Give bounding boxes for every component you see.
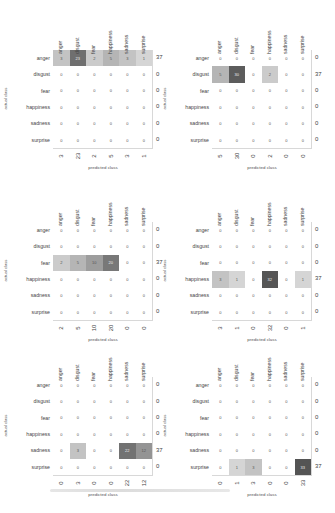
figure-caption-blurred xyxy=(50,489,230,492)
matrix-cell: 0 xyxy=(86,271,103,287)
row-label: anger xyxy=(165,55,209,61)
column-sum: 0 xyxy=(91,478,97,488)
row-sum: 0 xyxy=(315,103,318,109)
matrix-cell: 0 xyxy=(53,66,70,82)
matrix-cell: 0 xyxy=(53,459,70,475)
y-axis-label: actual class xyxy=(162,406,167,446)
column-label: anger xyxy=(216,213,222,226)
matrix-cell: 0 xyxy=(229,132,246,148)
matrix-cell: 0 xyxy=(136,255,153,271)
matrix-cell: 0 xyxy=(245,66,262,82)
matrix-cell: 0 xyxy=(212,116,229,132)
column-sum: 3 xyxy=(217,323,223,333)
matrix-cell: 0 xyxy=(86,83,103,99)
column-label: disgust xyxy=(74,210,80,226)
matrix-cell: 0 xyxy=(136,459,153,475)
column-label: fear xyxy=(90,45,96,54)
column-label: fear xyxy=(249,45,255,54)
row-sum: 0 xyxy=(156,430,159,436)
column-sum: 3 xyxy=(124,151,130,161)
matrix-cell: 0 xyxy=(245,83,262,99)
matrix-cell: 0 xyxy=(136,66,153,82)
x-axis-label: predicted class xyxy=(212,165,312,170)
column-label: anger xyxy=(216,41,222,54)
matrix-cell: 0 xyxy=(103,443,120,459)
matrix-cell: 0 xyxy=(278,271,295,287)
matrix-cell: 0 xyxy=(229,304,246,320)
column-sum: 32 xyxy=(267,323,273,333)
matrix-cell: 0 xyxy=(119,288,136,304)
row-sum: 0 xyxy=(315,430,318,436)
matrix-cell: 0 xyxy=(119,271,136,287)
row-label: surprise xyxy=(165,137,209,143)
matrix-cell: 10 xyxy=(86,255,103,271)
matrix-cell: 12 xyxy=(136,443,153,459)
matrix-cell: 0 xyxy=(295,83,312,99)
matrix-cell: 0 xyxy=(245,132,262,148)
column-label: happiness xyxy=(266,357,272,381)
row-sum: 0 xyxy=(315,120,318,126)
column-label: disgust xyxy=(74,365,80,381)
matrix-cell: 0 xyxy=(278,99,295,115)
column-label: happiness xyxy=(266,30,272,54)
matrix-cell: 0 xyxy=(295,304,312,320)
row-label: surprise xyxy=(165,309,209,315)
matrix-cell: 0 xyxy=(295,116,312,132)
row-label: anger xyxy=(165,382,209,388)
row-label: fear xyxy=(6,260,50,266)
row-sum: 37 xyxy=(156,54,163,60)
matrix-cell: 30 xyxy=(229,66,246,82)
matrix-cell: 22 xyxy=(119,443,136,459)
y-axis-label: actual class xyxy=(162,79,167,119)
matrix-cell: 0 xyxy=(136,410,153,426)
column-label: disgust xyxy=(233,210,239,226)
row-sum: 0 xyxy=(315,87,318,93)
column-label: sadness xyxy=(123,207,129,226)
matrix-cell: 0 xyxy=(119,304,136,320)
matrix-cell: 0 xyxy=(245,116,262,132)
matrix-cell: 0 xyxy=(212,238,229,254)
matrix-cell: 0 xyxy=(262,443,279,459)
matrix-cell: 0 xyxy=(119,99,136,115)
row-sum: 0 xyxy=(156,398,159,404)
matrix-cell: 0 xyxy=(262,410,279,426)
matrix-cell: 0 xyxy=(119,132,136,148)
matrix-cell: 0 xyxy=(53,443,70,459)
matrix-cell: 0 xyxy=(212,83,229,99)
matrix-grid: 0000000000000000000000000000000130033 xyxy=(212,377,312,476)
matrix-cell: 0 xyxy=(53,426,70,442)
matrix-cell: 0 xyxy=(278,459,295,475)
row-sum: 0 xyxy=(315,447,318,453)
column-label: disgust xyxy=(233,365,239,381)
row-label: disgust xyxy=(6,71,50,77)
matrix-cell: 0 xyxy=(295,238,312,254)
matrix-cell: 0 xyxy=(136,238,153,254)
column-sum: 30 xyxy=(234,151,240,161)
row-sum: 0 xyxy=(156,103,159,109)
matrix-cell: 0 xyxy=(103,238,120,254)
matrix-cell: 0 xyxy=(229,116,246,132)
y-axis-label: actual class xyxy=(3,79,8,119)
matrix-cell: 0 xyxy=(295,99,312,115)
column-sum: 3 xyxy=(75,478,81,488)
matrix-cell: 0 xyxy=(70,288,87,304)
row-sum: 0 xyxy=(156,308,159,314)
matrix-cell: 0 xyxy=(229,288,246,304)
x-axis-label: predicted class xyxy=(53,165,153,170)
matrix-cell: 0 xyxy=(212,132,229,148)
matrix-cell: 1 xyxy=(295,271,312,287)
row-label: happiness xyxy=(165,276,209,282)
matrix-cell: 0 xyxy=(245,238,262,254)
matrix-cell: 0 xyxy=(70,116,87,132)
row-sum: 0 xyxy=(315,398,318,404)
row-sum: 0 xyxy=(156,275,159,281)
matrix-cell: 0 xyxy=(245,304,262,320)
matrix-cell: 0 xyxy=(229,410,246,426)
matrix-grid: 3232531000000000000000000000000000000 xyxy=(53,50,153,149)
column-label: sadness xyxy=(123,362,129,381)
matrix-cell: 33 xyxy=(295,459,312,475)
matrix-cell: 0 xyxy=(119,116,136,132)
matrix-cell: 0 xyxy=(262,255,279,271)
row-label: fear xyxy=(6,415,50,421)
column-sum: 0 xyxy=(250,151,256,161)
